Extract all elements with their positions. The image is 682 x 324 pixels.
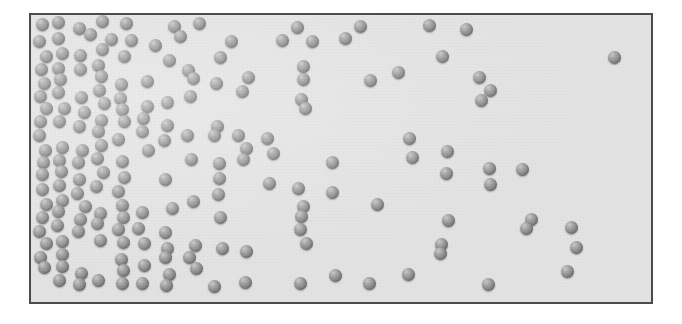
- particle: [56, 260, 69, 273]
- particle: [297, 60, 310, 73]
- particle: [71, 187, 84, 200]
- particle: [97, 166, 110, 179]
- particle: [299, 102, 312, 115]
- particle: [160, 279, 173, 292]
- particle: [39, 144, 52, 157]
- particle-layer: [31, 15, 651, 302]
- particle: [91, 152, 104, 165]
- particle: [406, 151, 419, 164]
- particle: [34, 90, 47, 103]
- particle: [300, 237, 313, 250]
- particle: [163, 54, 176, 67]
- particle: [242, 71, 255, 84]
- particle: [436, 50, 449, 63]
- particle: [91, 217, 104, 230]
- particle: [117, 236, 130, 249]
- particle: [236, 85, 249, 98]
- particle: [117, 211, 130, 224]
- particle: [608, 51, 621, 64]
- particle: [161, 119, 174, 132]
- particle: [149, 39, 162, 52]
- particle: [56, 47, 69, 60]
- particle: [92, 125, 105, 138]
- figure-root: [0, 0, 682, 324]
- particle: [520, 222, 533, 235]
- particle: [40, 102, 53, 115]
- particle: [295, 210, 308, 223]
- particle: [55, 165, 68, 178]
- particle: [276, 34, 289, 47]
- particle: [74, 49, 87, 62]
- particle: [263, 177, 276, 190]
- particle: [76, 144, 89, 157]
- particle: [117, 264, 130, 277]
- particle: [38, 77, 51, 90]
- particle: [75, 91, 88, 104]
- particle: [213, 157, 226, 170]
- particle: [56, 141, 69, 154]
- particle: [136, 125, 149, 138]
- particle: [216, 242, 229, 255]
- particle: [166, 202, 179, 215]
- particle: [181, 129, 194, 142]
- particle: [93, 84, 106, 97]
- particle: [137, 112, 150, 125]
- particle: [33, 225, 46, 238]
- particle: [132, 222, 145, 235]
- particle: [98, 97, 111, 110]
- particle: [158, 134, 171, 147]
- particle: [95, 139, 108, 152]
- particle: [364, 74, 377, 87]
- particle: [84, 28, 97, 41]
- particle: [136, 277, 149, 290]
- particle: [306, 35, 319, 48]
- particle: [120, 17, 133, 30]
- particle: [159, 173, 172, 186]
- particle: [33, 35, 46, 48]
- particle: [116, 103, 129, 116]
- gradient-panel: [29, 13, 653, 304]
- particle: [35, 63, 48, 76]
- particle: [73, 120, 86, 133]
- particle: [442, 214, 455, 227]
- particle: [36, 183, 49, 196]
- particle: [392, 66, 405, 79]
- particle: [565, 221, 578, 234]
- particle: [184, 90, 197, 103]
- particle: [402, 268, 415, 281]
- particle: [142, 144, 155, 157]
- particle: [212, 188, 225, 201]
- particle: [54, 73, 67, 86]
- particle: [159, 226, 172, 239]
- particle: [116, 155, 129, 168]
- particle: [96, 15, 109, 28]
- particle: [138, 259, 151, 272]
- particle: [267, 147, 280, 160]
- particle: [118, 171, 131, 184]
- particle: [95, 70, 108, 83]
- particle: [161, 96, 174, 109]
- particle: [136, 206, 149, 219]
- particle: [90, 180, 103, 193]
- particle: [79, 200, 92, 213]
- particle: [36, 211, 49, 224]
- particle: [40, 237, 53, 250]
- particle: [36, 168, 49, 181]
- particle: [475, 94, 488, 107]
- particle: [72, 225, 85, 238]
- particle: [570, 241, 583, 254]
- particle: [294, 223, 307, 236]
- particle: [460, 23, 473, 36]
- particle: [239, 276, 252, 289]
- particle: [516, 163, 529, 176]
- particle: [36, 18, 49, 31]
- particle: [185, 153, 198, 166]
- particle: [53, 115, 66, 128]
- particle: [190, 262, 203, 275]
- particle: [237, 153, 250, 166]
- particle: [112, 133, 125, 146]
- particle: [116, 277, 129, 290]
- particle: [403, 132, 416, 145]
- particle: [52, 16, 65, 29]
- particle: [326, 186, 339, 199]
